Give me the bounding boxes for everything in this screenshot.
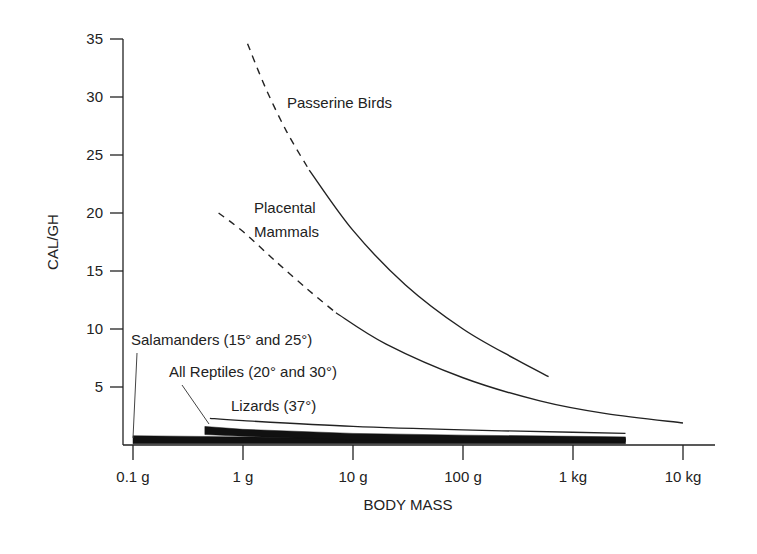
label-placental: Placental (254, 199, 316, 216)
annotation-layer: Passerine BirdsPlacentalMammalsSalamande… (131, 94, 392, 438)
label-salamanders-and: Salamanders (15° and 25°) (131, 331, 312, 348)
x-tick-label: 1 kg (559, 468, 587, 485)
leader-line-all-reptiles-and (182, 385, 209, 424)
x-axis-title: BODY MASS (364, 496, 453, 513)
curve-passerine-birds (309, 170, 548, 376)
y-tick-label: 20 (86, 204, 103, 221)
label-passerine-birds: Passerine Birds (287, 94, 392, 111)
y-tick-label: 15 (86, 262, 103, 279)
curve-placental-mammals (336, 313, 683, 423)
label-lizards: Lizards (37°) (231, 397, 316, 414)
x-tick-label: 0.1 g (116, 468, 149, 485)
leader-line-salamanders-and (133, 353, 137, 438)
x-tick-label: 100 g (444, 468, 482, 485)
label-mammals: Mammals (254, 223, 319, 240)
y-tick-label: 30 (86, 88, 103, 105)
y-axis-title: CAL/GH (44, 214, 61, 270)
y-tick-label: 5 (95, 378, 103, 395)
series-layer (133, 44, 683, 444)
label-all-reptiles-and: All Reptiles (20° and 30°) (169, 363, 337, 380)
x-tick-label: 10 kg (665, 468, 702, 485)
x-tick-label: 10 g (338, 468, 367, 485)
y-tick-label: 35 (86, 30, 103, 47)
x-tick-label: 1 g (233, 468, 254, 485)
axes: 51015202530350.1 g1 g10 g100 g1 kg10 kg (86, 30, 715, 485)
y-tick-label: 10 (86, 320, 103, 337)
y-tick-label: 25 (86, 146, 103, 163)
metabolic-rate-chart: 51015202530350.1 g1 g10 g100 g1 kg10 kg … (0, 0, 757, 554)
